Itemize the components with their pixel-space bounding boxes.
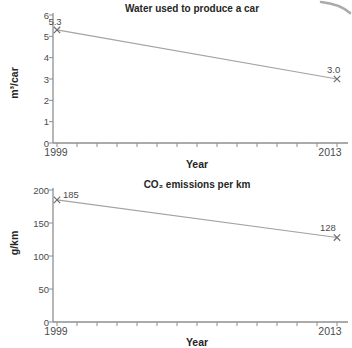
y-tick-label: 3 (23, 74, 49, 85)
x-axis-label: Year (186, 158, 208, 170)
x-tick-label: 2013 (318, 146, 341, 158)
y-tick-label: 5 (23, 31, 49, 42)
data-point-label: 3.0 (327, 64, 340, 75)
x-tick-label: 1999 (44, 146, 67, 158)
figure: 0123456Water used to produce a car199920… (0, 0, 352, 348)
chart-title: Water used to produce a car (125, 3, 259, 14)
y-tick-label: 2 (23, 95, 49, 106)
data-point-label: 128 (320, 222, 336, 233)
y-tick-label: 200 (23, 185, 49, 196)
y-tick-label: 6 (23, 10, 49, 21)
y-tick-label: 100 (23, 251, 49, 262)
chart-canvas (0, 0, 352, 348)
y-axis-label: g/km (8, 231, 20, 256)
trend-line (57, 30, 337, 79)
data-point-label: 185 (63, 189, 79, 200)
trend-line (57, 200, 337, 238)
data-point-label: 5.3 (48, 16, 61, 27)
corner-arc-decoration (321, 2, 350, 13)
y-axis-label: m³/car (8, 67, 20, 99)
y-tick-label: 150 (23, 218, 49, 229)
x-tick-label: 1999 (44, 325, 67, 337)
y-tick-label: 50 (23, 284, 49, 295)
x-axis-label: Year (186, 336, 208, 348)
x-tick-label: 2013 (318, 325, 341, 337)
chart-title: CO₂ emissions per km (144, 179, 251, 190)
y-tick-label: 1 (23, 116, 49, 127)
y-tick-label: 4 (23, 52, 49, 63)
